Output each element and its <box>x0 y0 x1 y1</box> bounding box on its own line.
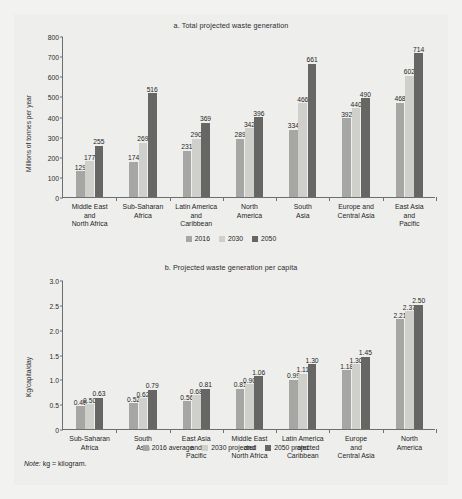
chart-a-plot-area: 0100200300400500600700800129177255Middle… <box>62 37 435 198</box>
legend-item[interactable]: 2050 <box>252 235 276 242</box>
bar-group: 2.212.372.50NorthAmerica <box>383 281 436 429</box>
bar: 0.90 <box>245 384 254 429</box>
legend-label: 2050 <box>261 235 276 242</box>
bar-group: 0.520.620.79SouthAsia <box>116 281 169 429</box>
y-axis-tick-label: 0 <box>55 195 59 202</box>
legend-item[interactable]: 2030 projected <box>202 444 256 451</box>
bar: 342 <box>245 128 254 197</box>
bar-value-label: 334 <box>288 122 299 129</box>
bar-value-label: 714 <box>413 46 424 53</box>
x-axis-separator-tick <box>116 429 117 433</box>
bar-group: 129177255Middle EastandNorth Africa <box>63 37 116 197</box>
legend-swatch-icon <box>219 236 225 242</box>
y-axis-tick-label: 700 <box>48 54 59 61</box>
bar-value-label: 396 <box>253 110 264 117</box>
x-axis-separator-tick <box>329 429 330 433</box>
x-axis-category-line: Europe <box>329 435 382 444</box>
x-axis-category-line: East Asia <box>383 203 436 212</box>
bar: 0.68 <box>192 395 201 429</box>
bar-value-label: 0.81 <box>199 381 212 388</box>
x-axis-category-line: Sub-Saharan <box>63 435 116 444</box>
bar-value-label: 516 <box>147 86 158 93</box>
y-axis-tick-label: 200 <box>48 154 59 161</box>
bar-value-label: 174 <box>128 154 139 161</box>
legend-label: 2016 <box>195 235 210 242</box>
bar: 1.30 <box>352 364 361 429</box>
bar: 369 <box>201 123 210 197</box>
x-axis-category-label: NorthAmerica <box>223 203 276 220</box>
legend-item[interactable]: 2016 <box>186 235 210 242</box>
y-axis-tick-label: 500 <box>48 94 59 101</box>
bar-group: 334466661SouthAsia <box>276 37 329 197</box>
x-axis-category-label: SouthAsia <box>276 203 329 220</box>
x-axis-category-line: South <box>116 435 169 444</box>
bar-value-label: 0.79 <box>146 382 159 389</box>
bar: 1.06 <box>254 376 263 429</box>
bar-value-label: 129 <box>75 164 86 171</box>
legend-swatch-icon <box>186 236 192 242</box>
legend-item[interactable]: 2030 <box>219 235 243 242</box>
bar: 1.11 <box>298 374 307 429</box>
figure-note: Note: kg = kilogram. <box>24 460 86 467</box>
legend-label: 2016 average <box>152 444 194 451</box>
x-axis-separator-tick <box>329 197 330 201</box>
bar-group: 0.460.500.63Sub-SaharanAfrica <box>63 281 116 429</box>
bar-group: 0.991.111.30Latin AmericaandCaribbean <box>276 281 329 429</box>
x-axis-category-line: Central Asia <box>329 452 382 461</box>
y-axis-tick-label: 1.5 <box>50 352 59 359</box>
y-axis-tick-mark <box>60 198 64 199</box>
bar-group: 392440490Europe andCentral Asia <box>329 37 382 197</box>
bar: 2.50 <box>414 305 423 429</box>
y-axis-tick-label: 2.0 <box>50 327 59 334</box>
bar: 466 <box>298 103 307 197</box>
bar: 1.45 <box>361 357 370 429</box>
legend-swatch-icon <box>202 445 208 451</box>
bar: 0.52 <box>129 403 138 429</box>
bar-value-label: 369 <box>200 115 211 122</box>
bar: 255 <box>95 146 104 197</box>
bar: 0.99 <box>289 380 298 429</box>
bar-group: 289342396NorthAmerica <box>223 37 276 197</box>
bar: 174 <box>129 162 138 197</box>
x-axis-category-line: Latin America <box>170 203 223 212</box>
bar: 231 <box>183 151 192 197</box>
legend-swatch-icon <box>252 236 258 242</box>
x-axis-category-label: East AsiaandPacific <box>383 203 436 229</box>
x-axis-category-line: Caribbean <box>170 220 223 229</box>
bar-value-label: 1.06 <box>252 369 265 376</box>
x-axis-category-line: and <box>63 212 116 221</box>
y-axis-tick-label: 2.5 <box>50 302 59 309</box>
x-axis-separator-tick <box>276 429 277 433</box>
bar-group: 231290369Latin AmericaandCaribbean <box>170 37 223 197</box>
x-axis-category-line: and <box>383 212 436 221</box>
bar: 269 <box>139 143 148 197</box>
bar: 0.81 <box>236 389 245 429</box>
bar: 1.18 <box>342 370 351 429</box>
x-axis-category-line: North <box>223 203 276 212</box>
bar-value-label: 231 <box>181 143 192 150</box>
x-axis-category-line: Middle East <box>63 203 116 212</box>
legend-swatch-icon <box>143 445 149 451</box>
x-axis-category-line: North Africa <box>223 452 276 461</box>
chart-b-plot-area: 00.51.01.52.02.53.00.460.500.63Sub-Sahar… <box>62 281 435 430</box>
legend-item[interactable]: 2050 projected <box>265 444 319 451</box>
bar-value-label: 289 <box>235 131 246 138</box>
bar-group: 1.181.301.45EuropeandCentral Asia <box>329 281 382 429</box>
x-axis-category-line: North Africa <box>63 220 116 229</box>
legend-item[interactable]: 2016 average <box>143 444 194 451</box>
bar-value-label: 290 <box>191 131 202 138</box>
x-axis-separator-tick <box>276 197 277 201</box>
bar-value-label: 177 <box>84 154 95 161</box>
bar-value-label: 0.63 <box>92 390 105 397</box>
bar: 0.63 <box>95 398 104 429</box>
y-axis-tick-label: 800 <box>48 34 59 41</box>
x-axis-category-line: South <box>276 203 329 212</box>
bar: 2.37 <box>405 311 414 429</box>
chart-b-y-axis-label: Kg/capita/day <box>25 357 32 397</box>
chart-a-legend: 201620302050 <box>14 235 448 242</box>
bar: 516 <box>148 93 157 197</box>
x-axis-category-line: Central Asia <box>329 212 382 221</box>
bar: 0.56 <box>183 401 192 429</box>
y-axis-tick-label: 1.0 <box>50 377 59 384</box>
x-axis-category-line: East Asia <box>170 435 223 444</box>
